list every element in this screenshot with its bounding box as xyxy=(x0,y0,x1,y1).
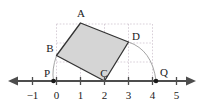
tick-label-zero: 0 xyxy=(54,89,60,101)
arc-D-to-Q xyxy=(129,42,157,81)
tick-label-two: 2 xyxy=(102,89,108,101)
label-d: D xyxy=(132,30,140,42)
label-a: A xyxy=(77,7,85,19)
axis-tick-labels: −1 0 1 2 3 4 5 xyxy=(27,89,180,101)
axis-arrow-right xyxy=(186,77,196,86)
tick-label-five: 5 xyxy=(174,89,180,101)
arc-B-to-P xyxy=(53,56,57,81)
tick-label-three: 3 xyxy=(126,89,132,101)
geometry-figure: −1 0 1 2 3 4 5 A B C D P Q xyxy=(0,0,203,107)
tick-label-one: 1 xyxy=(78,89,84,101)
label-q: Q xyxy=(160,66,168,78)
point-q-dot xyxy=(154,79,159,84)
axis-arrow-left xyxy=(8,77,18,86)
tick-label-four: 4 xyxy=(150,89,156,101)
figure-canvas: −1 0 1 2 3 4 5 A B C D P Q xyxy=(0,0,203,107)
label-b: B xyxy=(46,42,53,54)
point-p-dot xyxy=(51,79,56,84)
label-p: P xyxy=(44,67,50,79)
tick-label-minus-one: −1 xyxy=(27,89,39,101)
square-abcd xyxy=(57,23,129,81)
label-c: C xyxy=(100,67,107,79)
